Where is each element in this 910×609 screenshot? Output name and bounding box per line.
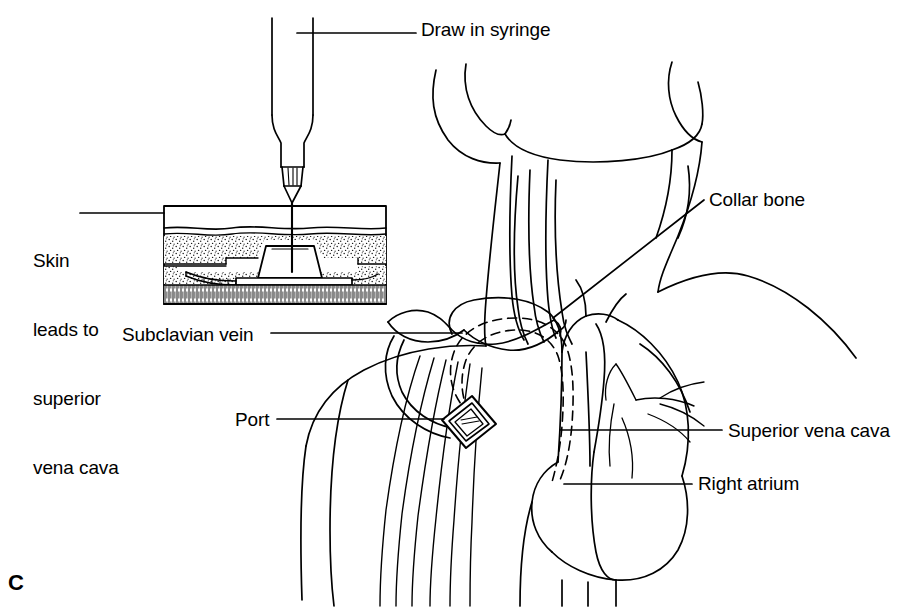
panel-letter: C	[8, 570, 24, 596]
head-and-jaw	[433, 62, 703, 163]
label-skin-line-3: superior	[33, 387, 119, 410]
label-skin-line-4: vena cava	[33, 456, 119, 479]
label-collar-bone: Collar bone	[709, 188, 805, 211]
diagram-artwork	[0, 0, 910, 609]
label-right-atrium: Right atrium	[698, 472, 799, 495]
label-port: Port	[235, 408, 269, 431]
label-skin-block: Skin leads to superior vena cava	[33, 203, 119, 525]
label-skin-line-1: Skin	[33, 249, 119, 272]
label-superior-vena-cava: Superior vena cava	[728, 419, 890, 442]
heart	[520, 320, 704, 606]
rib-cage	[380, 356, 482, 606]
label-skin-line-2: leads to	[33, 318, 119, 341]
label-draw-in-syringe: Draw in syringe	[421, 18, 550, 41]
leader-collar-bone	[553, 200, 704, 318]
label-subclavian-vein: Subclavian vein	[122, 323, 254, 346]
neck	[485, 142, 703, 346]
skin-cross-section-inset	[164, 204, 386, 304]
figure-panel-c: Draw in syringe Collar bone Skin leads t…	[0, 0, 910, 609]
